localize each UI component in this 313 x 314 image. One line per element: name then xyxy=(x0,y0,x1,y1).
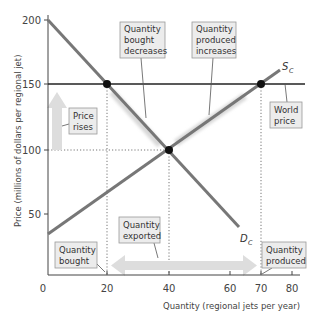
x-tick-0: 0 xyxy=(40,283,46,294)
point-quantity-bought xyxy=(103,80,111,88)
x-tick-20: 20 xyxy=(101,283,114,294)
x-axis-title: Quantity (regional jets per year) xyxy=(163,301,300,311)
supply-curve xyxy=(48,70,280,234)
annotation-quantity-produced-increases: Quantity produced increases xyxy=(192,22,237,58)
y-tick-150: 150 xyxy=(22,79,41,90)
price-rises-arrow xyxy=(47,92,67,150)
svg-text:produced: produced xyxy=(196,35,236,45)
svg-text:Quantity: Quantity xyxy=(59,245,96,255)
svg-text:rises: rises xyxy=(73,122,94,132)
x-tick-70: 70 xyxy=(255,283,268,294)
annotation-quantity-produced: Quantity produced xyxy=(262,242,306,268)
svg-text:exported: exported xyxy=(123,231,161,241)
svg-text:Price: Price xyxy=(73,111,94,121)
export-chart: 200 150 100 50 0 20 40 60 70 80 Price (m… xyxy=(0,0,313,314)
x-tick-60: 60 xyxy=(224,283,237,294)
svg-text:produced: produced xyxy=(266,256,306,266)
x-tick-80: 80 xyxy=(286,283,299,294)
quantity-exported-arrow xyxy=(111,255,257,276)
y-tick-50: 50 xyxy=(28,209,41,220)
svg-text:decreases: decreases xyxy=(124,46,168,56)
svg-text:bought: bought xyxy=(59,256,90,266)
annotation-quantity-bought-decreases: Quantity bought decreases xyxy=(120,22,168,58)
svg-text:Quantity: Quantity xyxy=(266,245,303,255)
x-tick-labels: 0 20 40 60 70 80 xyxy=(40,283,299,294)
movement-highlights xyxy=(112,92,245,145)
svg-text:C: C xyxy=(248,239,253,247)
supply-label: S C xyxy=(282,61,294,75)
svg-text:price: price xyxy=(274,116,295,126)
svg-text:World: World xyxy=(274,105,298,115)
svg-text:increases: increases xyxy=(196,46,237,56)
svg-text:D: D xyxy=(240,233,248,244)
y-axis-title: Price (millions of dollars per regional … xyxy=(13,55,23,227)
annotation-quantity-bought: Quantity bought xyxy=(55,242,97,268)
y-tick-labels: 200 150 100 50 xyxy=(22,15,41,220)
annotation-price-rises: Price rises xyxy=(69,108,97,134)
annotation-quantity-exported: Quantity exported xyxy=(119,217,161,243)
y-tick-100: 100 xyxy=(22,145,41,156)
svg-text:S: S xyxy=(282,61,289,72)
x-tick-40: 40 xyxy=(163,283,176,294)
annotation-world-price: World price xyxy=(270,102,302,128)
point-quantity-produced xyxy=(257,80,265,88)
svg-text:Quantity: Quantity xyxy=(123,220,160,230)
svg-text:bought: bought xyxy=(124,35,155,45)
demand-movement-highlight xyxy=(112,92,160,145)
svg-text:C: C xyxy=(289,67,294,75)
demand-label: D C xyxy=(240,233,253,247)
point-no-trade-equilibrium xyxy=(165,146,173,154)
svg-text:Quantity: Quantity xyxy=(124,24,161,34)
y-tick-200: 200 xyxy=(22,15,41,26)
svg-text:Quantity: Quantity xyxy=(196,24,233,34)
